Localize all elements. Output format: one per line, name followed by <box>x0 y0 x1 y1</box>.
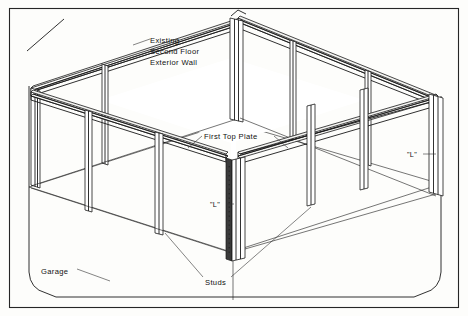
corner-post-right-L <box>429 94 443 196</box>
label-existing-wall-line2: Second Floor <box>150 47 199 56</box>
label-corner-l-right: "L" <box>407 150 417 159</box>
label-garage: Garage <box>41 267 68 276</box>
drawing-sheet: Existing Second Floor Exterior Wall Firs… <box>0 0 468 316</box>
corner-post-right-body <box>429 94 443 196</box>
framing-isometric-svg: Existing Second Floor Exterior Wall Firs… <box>0 0 468 316</box>
leader-garage <box>77 269 110 281</box>
corner-post-center-light-face <box>232 157 245 261</box>
corner-post-center-dark-face <box>226 158 232 261</box>
label-existing-wall-line3: Exterior Wall <box>150 58 197 67</box>
leader-existing-wall <box>133 39 150 45</box>
corner-post-rear <box>230 18 243 122</box>
label-corner-l-center: "L" <box>210 200 220 209</box>
corner-slash-mark <box>27 19 64 51</box>
label-studs: Studs <box>205 278 226 287</box>
corner-post-center-L <box>226 157 245 300</box>
leader-studs-left <box>165 233 203 277</box>
label-first-top-plate: First Top Plate <box>204 132 258 141</box>
corner-post-left <box>31 88 40 188</box>
label-existing-wall-line1: Existing <box>150 36 179 45</box>
